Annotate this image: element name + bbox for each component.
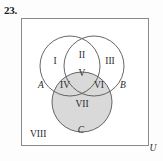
universal-set-label: U (150, 143, 158, 153)
region-label-iii: III (105, 56, 115, 66)
venn-diagram-svg: I II III IV V VI VII VIII A B C U (0, 0, 163, 161)
region-label-vii: VII (75, 99, 88, 109)
region-label-v: V (79, 68, 86, 78)
set-label-a: A (37, 80, 44, 90)
region-label-i: I (53, 56, 56, 66)
region-label-ii: II (79, 50, 85, 60)
set-label-c: C (78, 125, 85, 135)
region-label-vi: VI (94, 80, 104, 90)
region-label-viii: VIII (30, 129, 46, 139)
set-label-b: B (120, 80, 126, 90)
region-label-iv: IV (60, 80, 70, 90)
venn-diagram-figure: 23. I II III IV V VI (0, 0, 163, 161)
